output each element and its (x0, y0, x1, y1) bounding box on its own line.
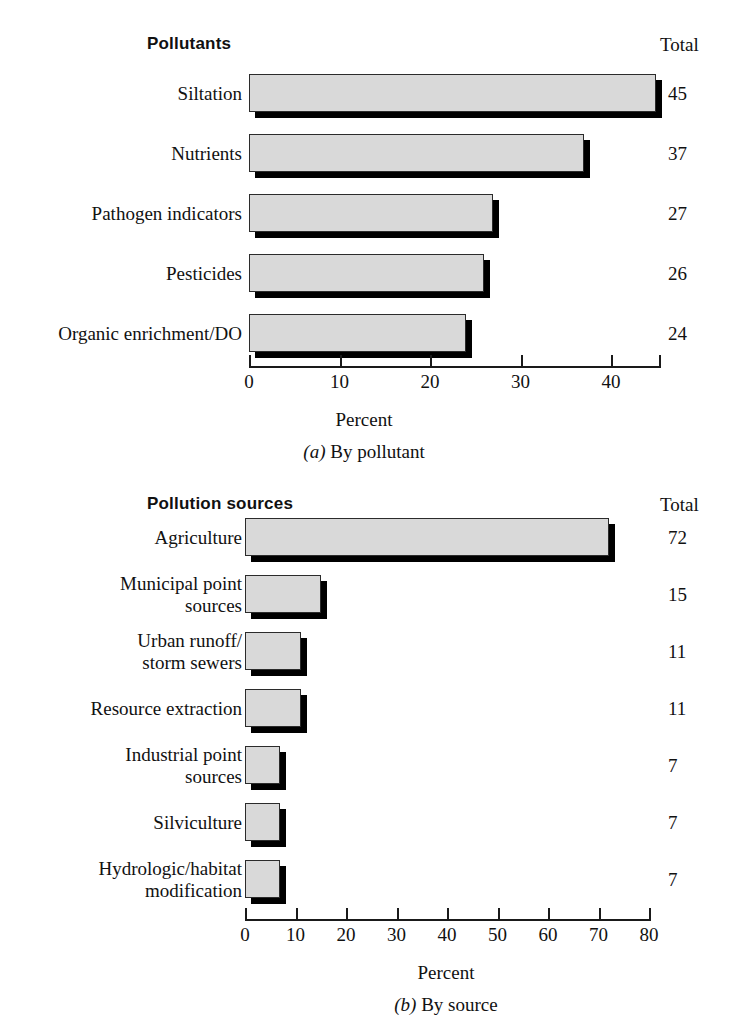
bar (245, 518, 617, 564)
bar-category-label: Siltation (2, 83, 242, 105)
bar-total-value: 37 (668, 143, 687, 165)
bar (245, 860, 288, 906)
axis-tick-label: 60 (539, 924, 558, 946)
bar-fill (245, 575, 321, 613)
bar (249, 74, 664, 120)
bar-fill (249, 194, 493, 232)
axis-tick-label: 40 (602, 371, 621, 393)
axis-end-cap (659, 355, 661, 368)
bar-total-value: 72 (668, 527, 687, 549)
axis-line (249, 366, 661, 368)
bar-category-label: Pesticides (2, 263, 242, 285)
bar-total-value: 7 (668, 755, 678, 777)
bar-total-value: 45 (668, 83, 687, 105)
chart-a-title: Pollutants (147, 34, 231, 54)
chart-a-total-header: Total (660, 34, 699, 56)
bar-fill (249, 254, 484, 292)
bar-category-label: Industrial point sources (2, 744, 242, 788)
chart-b-axis-title: Percent (418, 962, 475, 984)
axis-tick-label: 0 (244, 371, 254, 393)
chart-b-caption: (b) By source (394, 994, 497, 1016)
chart-b-x-axis: 01020304050607080 (245, 905, 649, 935)
bar-total-value: 26 (668, 263, 687, 285)
axis-tick (447, 908, 449, 921)
bar-fill (249, 74, 656, 112)
bar-category-label: Pathogen indicators (2, 203, 242, 225)
axis-tick (296, 908, 298, 921)
bar-fill (245, 689, 301, 727)
bar-category-label: Agriculture (2, 527, 242, 549)
chart-b-header: Pollution sources Total (0, 494, 750, 516)
bar-total-value: 27 (668, 203, 687, 225)
chart-b-caption-text: By source (416, 994, 497, 1015)
bar-category-label: Silviculture (2, 812, 242, 834)
axis-tick-label: 50 (488, 924, 507, 946)
axis-tick (249, 355, 251, 368)
bar (245, 632, 309, 678)
axis-tick-label: 0 (240, 924, 250, 946)
axis-tick (611, 355, 613, 368)
axis-tick (430, 355, 432, 368)
axis-tick (548, 908, 550, 921)
axis-tick-label: 20 (421, 371, 440, 393)
bar (249, 134, 592, 180)
bar-total-value: 11 (668, 698, 686, 720)
axis-tick (521, 355, 523, 368)
chart-a-header: Pollutants Total (0, 34, 750, 56)
bar (245, 803, 288, 849)
axis-tick-label: 10 (330, 371, 349, 393)
bar-fill (245, 632, 301, 670)
chart-a-x-axis: 010203040 (249, 352, 661, 382)
bar-category-label: Urban runoff/ storm sewers (2, 630, 242, 674)
bar (245, 575, 329, 621)
bar-fill (249, 134, 584, 172)
axis-tick (245, 908, 247, 921)
bar-total-value: 15 (668, 584, 687, 606)
axis-tick (340, 355, 342, 368)
bar-total-value: 7 (668, 812, 678, 834)
axis-tick (346, 908, 348, 921)
chart-panel-by-source: Pollution sources Total Agriculture72Mun… (0, 470, 750, 1036)
chart-b-total-header: Total (660, 494, 699, 516)
bar-fill (245, 746, 280, 784)
bar (249, 194, 501, 240)
bar-fill (245, 518, 609, 556)
axis-tick-label: 10 (286, 924, 305, 946)
chart-a-caption-prefix: (a) (303, 441, 325, 462)
bar-category-label: Municipal point sources (2, 573, 242, 617)
axis-tick-label: 30 (387, 924, 406, 946)
chart-b-title: Pollution sources (147, 494, 293, 514)
chart-a-caption: (a) By pollutant (303, 441, 424, 463)
axis-tick (397, 908, 399, 921)
bar-fill (249, 314, 466, 352)
bar-category-label: Hydrologic/habitat modification (2, 858, 242, 902)
bar (245, 689, 309, 735)
chart-panel-by-pollutant: Pollutants Total Siltation45Nutrients37P… (0, 0, 750, 470)
axis-tick-label: 30 (511, 371, 530, 393)
bar-fill (245, 803, 280, 841)
chart-b-caption-prefix: (b) (394, 994, 416, 1015)
axis-tick-label: 40 (438, 924, 457, 946)
bar (249, 254, 492, 300)
bar (245, 746, 288, 792)
axis-tick (599, 908, 601, 921)
axis-tick-label: 70 (589, 924, 608, 946)
axis-tick-label: 80 (640, 924, 659, 946)
bar-fill (245, 860, 280, 898)
bar-total-value: 24 (668, 323, 687, 345)
axis-tick (498, 908, 500, 921)
bar-total-value: 7 (668, 869, 678, 891)
bar-category-label: Resource extraction (2, 698, 242, 720)
bar-total-value: 11 (668, 641, 686, 663)
axis-tick-label: 20 (337, 924, 356, 946)
bar-category-label: Nutrients (2, 143, 242, 165)
chart-a-caption-text: By pollutant (325, 441, 424, 462)
chart-a-axis-title: Percent (336, 409, 393, 431)
bar-category-label: Organic enrichment/DO (2, 323, 242, 345)
axis-tick (649, 908, 651, 921)
